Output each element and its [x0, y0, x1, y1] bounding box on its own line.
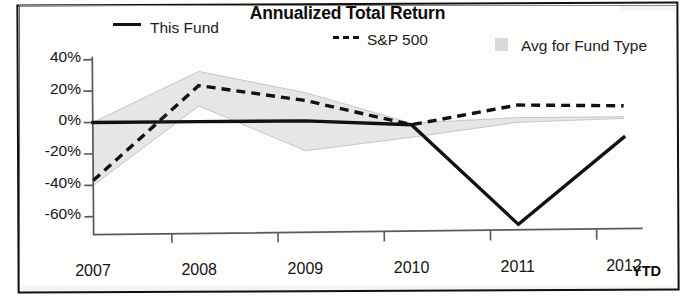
y-tick-label: 0% — [7, 111, 81, 129]
y-tick-label: 20% — [7, 80, 81, 98]
chart-canvas — [0, 0, 695, 298]
scanned-page: Annualized Total Return This Fund S&P 50… — [0, 0, 695, 298]
x-tick-label: 2009 — [260, 260, 350, 278]
avg-fund-type-band — [92, 68, 624, 185]
x-tick-label: 2007 — [48, 262, 138, 280]
x-tick-label: 2010 — [367, 259, 457, 277]
y-tick-label: -60% — [7, 205, 81, 223]
x-tick-label: 2011 — [473, 258, 563, 276]
x-tick-label: 2008 — [154, 261, 244, 279]
y-tick-label: -20% — [7, 142, 81, 160]
y-tick-label: 40% — [7, 48, 81, 66]
x-axis-ytd-label: YTD — [632, 263, 661, 279]
chart-axes — [83, 52, 642, 243]
y-tick-label: -40% — [7, 174, 81, 192]
plot-area — [0, 0, 695, 298]
